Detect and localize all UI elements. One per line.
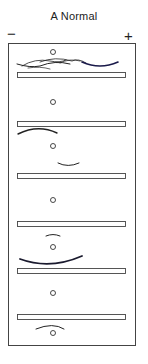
arc-panel5-lower <box>20 256 82 264</box>
arc-panel5-upper <box>46 235 60 237</box>
arc-panel3-upper <box>18 129 57 134</box>
application-points <box>51 50 56 336</box>
origin-circle-2 <box>51 100 56 105</box>
origin-circle-1 <box>51 50 56 55</box>
bar-2 <box>18 122 126 127</box>
electrophoresis-diagram <box>0 0 148 364</box>
diagram-frame <box>9 44 136 346</box>
origin-circle-4 <box>51 198 56 203</box>
origin-circle-6 <box>51 291 56 296</box>
bar-4 <box>18 222 126 227</box>
arc-panel3-lower <box>58 163 79 166</box>
bar-6 <box>18 315 126 320</box>
arc-panel7 <box>36 326 64 330</box>
bars <box>18 73 126 320</box>
origin-circle-5 <box>51 245 56 250</box>
bar-1 <box>18 73 126 78</box>
bar-3 <box>18 174 126 179</box>
bar-5 <box>18 269 126 274</box>
precipitin-arcs <box>17 59 118 329</box>
arc-panel1-f <box>28 67 50 69</box>
origin-circle-7 <box>51 331 56 336</box>
origin-circle-3 <box>51 144 56 149</box>
arc-panel1-e <box>82 62 118 66</box>
